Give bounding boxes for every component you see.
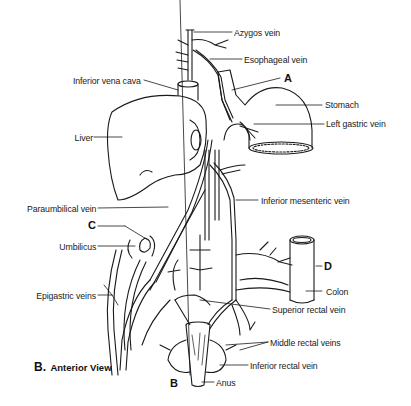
label-left-gastric-vein: Left gastric vein	[326, 118, 386, 129]
portal-systemic-anastomoses-diagram: Azygos vein Esophageal vein Inferior ven…	[0, 0, 411, 406]
label-inferior-rectal-vein: Inferior rectal vein	[250, 360, 318, 371]
label-azygos-vein: Azygos vein	[234, 27, 280, 38]
letter-a: A	[284, 72, 292, 84]
label-paraumbilical-vein: Paraumbilical vein	[27, 203, 96, 214]
letter-d: D	[324, 260, 332, 272]
label-liver: Liver	[75, 132, 93, 143]
letter-b: B	[170, 377, 178, 389]
label-middle-rectal-veins: Middle rectal veins	[270, 337, 341, 348]
caption-prefix: B.	[34, 360, 46, 374]
label-umbilicus: Umbilicus	[59, 241, 96, 252]
label-inferior-mesenteric-vein: Inferior mesenteric vein	[261, 195, 350, 206]
figure-caption: B. Anterior View	[34, 357, 112, 375]
label-esophageal-vein: Esophageal vein	[244, 54, 307, 65]
letter-c: C	[88, 219, 96, 231]
caption-text: Anterior View	[50, 362, 111, 373]
label-colon: Colon	[326, 286, 348, 297]
label-epigastric-veins: Epigastric veins	[36, 290, 96, 301]
label-inferior-vena-cava: Inferior vena cava	[73, 75, 141, 86]
label-anus: Anus	[216, 377, 236, 388]
label-superior-rectal-vein: Superior rectal vein	[272, 304, 345, 315]
label-stomach: Stomach	[325, 99, 359, 110]
